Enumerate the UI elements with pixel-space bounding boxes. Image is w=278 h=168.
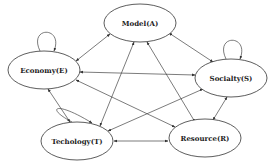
edge-A-S <box>169 33 213 62</box>
self-loop-E <box>38 32 56 51</box>
edge-A-E <box>76 34 110 61</box>
node-socialty: Socialty(S) <box>195 59 267 97</box>
node-label-socialty: Socialty(S) <box>210 74 253 83</box>
edge-E-T <box>48 89 70 122</box>
self-loop-S <box>224 40 242 59</box>
self-loop-T <box>57 109 92 123</box>
node-model: Model(A) <box>104 4 176 42</box>
edge-A-T <box>100 42 134 126</box>
edge-A-R <box>147 42 195 122</box>
node-label-model: Model(A) <box>122 19 158 28</box>
edge-S-R <box>213 97 227 120</box>
node-label-economy: Economy(E) <box>20 66 67 75</box>
node-resource: Resource(R) <box>169 119 241 157</box>
node-economy: Economy(E) <box>8 51 80 89</box>
edge-R-E <box>76 80 175 127</box>
node-label-resource: Resource(R) <box>181 134 230 143</box>
diagram-canvas: Model(A) Economy(E) Socialty(S) Techolog… <box>0 0 278 168</box>
edge-E-S <box>80 72 195 75</box>
node-techology: Techology(T) <box>41 122 113 160</box>
node-label-techology: Techology(T) <box>51 137 102 146</box>
